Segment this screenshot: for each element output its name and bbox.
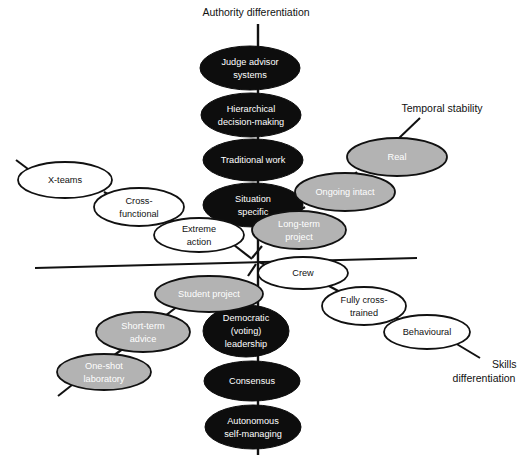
node-autonomous[interactable]: Autonomous self-managing: [205, 405, 301, 449]
node-label-line-2: laboratory: [84, 374, 125, 384]
node-label-line-1: Situation: [235, 194, 271, 204]
node-label-line-2: functional: [119, 209, 158, 219]
node-shape: [205, 405, 301, 449]
node-one-shot-laboratory[interactable]: One-shot laboratory: [57, 354, 151, 390]
node-label-line-2: trained: [350, 308, 378, 318]
node-label-line-1: Ongoing intact: [315, 187, 375, 197]
node-label-line-2: self-managing: [224, 429, 282, 439]
node-label-line-2: systems: [233, 70, 267, 80]
node-behavioural[interactable]: Behavioural: [384, 315, 470, 349]
node-x-teams[interactable]: X-teams: [18, 162, 112, 198]
node-short-term-advice[interactable]: Short-term advice: [96, 312, 190, 352]
node-shape: [94, 188, 184, 226]
typology-diagram: Judge advisor systems Hierarchical decis…: [0, 0, 528, 465]
node-label-line-3: leadership: [225, 339, 267, 349]
node-shape: [200, 46, 300, 90]
node-label-line-1: Extreme: [182, 224, 216, 234]
node-label-line-1: Hierarchical: [227, 104, 276, 114]
node-consensus[interactable]: Consensus: [204, 361, 300, 401]
axis-label-skills-differentiation-line-1: Skills: [492, 358, 517, 370]
diagram-canvas: Judge advisor systems Hierarchical decis…: [0, 0, 528, 465]
node-label-line-1: Judge advisor: [221, 57, 278, 67]
axis-line-horizontal: [35, 258, 417, 268]
node-label-line-2: decision-making: [218, 117, 284, 127]
node-label-line-2: project: [285, 232, 313, 242]
leader-line-temporal-stability: [397, 118, 420, 140]
node-student-project[interactable]: Student project: [155, 276, 263, 312]
axis-label-skills-differentiation-line-2: differentiation: [453, 372, 516, 384]
node-label-line-1: Student project: [178, 289, 240, 299]
node-cross-functional[interactable]: Cross- functional: [94, 188, 184, 226]
axis-label-authority-differentiation: Authority differentiation: [202, 6, 309, 18]
node-crew[interactable]: Crew: [258, 257, 348, 289]
node-label-line-1: Short-term: [121, 321, 165, 331]
node-label-line-1: Crew: [292, 268, 314, 278]
node-hierarchical[interactable]: Hierarchical decision-making: [201, 93, 301, 137]
connector-extreme-center: [234, 245, 252, 259]
node-label-line-1: Behavioural: [403, 327, 452, 337]
node-label-line-1: Long-term: [278, 219, 320, 229]
node-label-line-2: action: [187, 237, 212, 247]
node-label-line-2: (voting): [231, 326, 262, 336]
node-label-line-1: Autonomous: [227, 416, 279, 426]
node-label-line-1: Cross-: [125, 196, 152, 206]
connector-center-student: [248, 264, 256, 276]
node-shape: [201, 93, 301, 137]
node-traditional-work[interactable]: Traditional work: [203, 139, 303, 181]
node-label-line-1: Democratic: [223, 313, 270, 323]
node-shape: [96, 312, 190, 352]
node-label-line-2: advice: [130, 334, 157, 344]
node-fully-cross-trained[interactable]: Fully cross- trained: [322, 287, 406, 325]
axis-label-temporal-stability: Temporal stability: [401, 102, 483, 114]
node-shape: [322, 287, 406, 325]
node-label-line-1: Real: [388, 152, 407, 162]
node-real[interactable]: Real: [347, 138, 447, 176]
node-label-line-2: specific: [238, 207, 269, 217]
node-shape: [252, 211, 346, 249]
node-label-line-1: Fully cross-: [341, 295, 388, 305]
node-judge-advisor[interactable]: Judge advisor systems: [200, 46, 300, 90]
node-label-line-1: X-teams: [48, 175, 83, 185]
node-ongoing-intact[interactable]: Ongoing intact: [295, 173, 395, 211]
leader-line-one-shot: [58, 385, 72, 396]
node-democratic[interactable]: Democratic (voting) leadership: [203, 305, 289, 357]
node-extreme-action[interactable]: Extreme action: [154, 218, 244, 252]
node-label-line-1: Traditional work: [221, 155, 286, 165]
node-long-term-project[interactable]: Long-term project: [252, 211, 346, 249]
node-shape: [57, 354, 151, 390]
node-label-line-1: One-shot: [85, 361, 123, 371]
node-label-line-1: Consensus: [229, 376, 275, 386]
